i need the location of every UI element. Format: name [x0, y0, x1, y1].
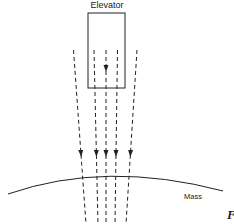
arrowhead-icon [114, 150, 119, 157]
down-arrow-icon [104, 65, 109, 72]
elevator-label: Elevator [88, 0, 126, 10]
gravity-elevator-diagram: Elevator Mass F [0, 0, 234, 224]
diagram-graphics [0, 0, 234, 224]
figure-label-fragment: F [227, 207, 234, 223]
arrowhead-icon [104, 150, 109, 157]
mass-label: Mass [184, 192, 202, 201]
gravitational-field-lines [74, 50, 138, 224]
field-line [126, 50, 137, 224]
field-line [74, 50, 87, 224]
arrowhead-icon [94, 150, 99, 157]
field-line [94, 50, 98, 224]
field-line [115, 50, 118, 224]
